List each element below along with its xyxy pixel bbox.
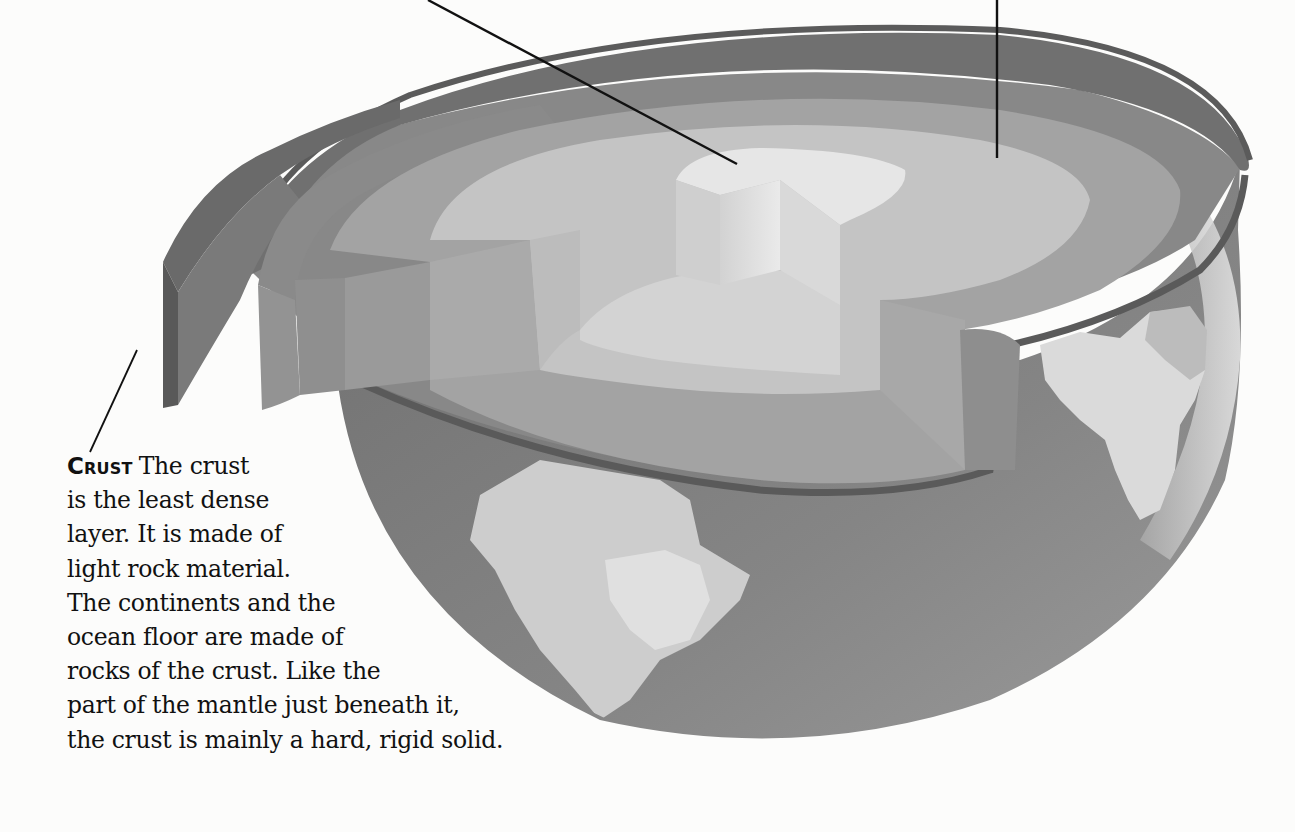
caption-line-5: The continents and the: [67, 586, 627, 620]
caption-line-7: rocks of the crust. Like the: [67, 654, 627, 688]
caption-line-2: is the least dense: [67, 483, 627, 517]
caption-lead-term: Crust: [67, 453, 133, 479]
crust-caption: CrustThe crust is the least dense layer.…: [67, 449, 627, 757]
crust-pointer: [90, 350, 137, 452]
caption-line-1: CrustThe crust: [67, 449, 627, 483]
caption-line-6: ocean floor are made of: [67, 620, 627, 654]
caption-line-4: light rock material.: [67, 552, 627, 586]
textbook-page: CrustThe crust is the least dense layer.…: [0, 0, 1295, 832]
caption-line-3: layer. It is made of: [67, 517, 627, 551]
caption-line-8: part of the mantle just beneath it,: [67, 688, 627, 722]
caption-line-9: the crust is mainly a hard, rigid solid.: [67, 723, 627, 757]
